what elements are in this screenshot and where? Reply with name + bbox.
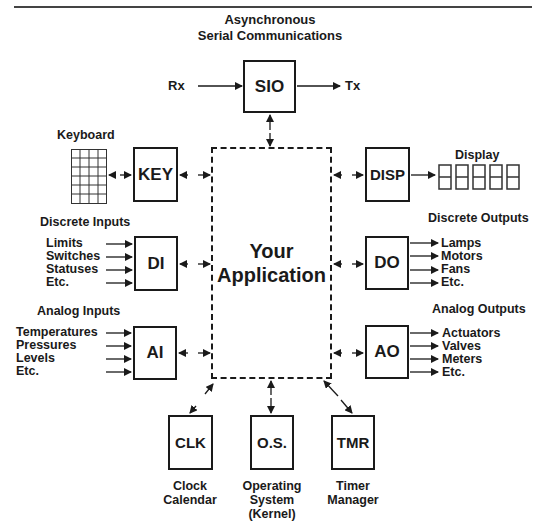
list-item: Etc. <box>16 365 98 378</box>
clk-box: CLK <box>168 415 213 470</box>
analog-outputs-heading: Analog Outputs <box>432 302 526 316</box>
rx-label: Rx <box>168 79 185 93</box>
tmr-caption: Timer Manager <box>313 479 393 507</box>
analog-inputs-list: Temperatures Pressures Levels Etc. <box>16 326 98 378</box>
do-box: DO <box>365 236 409 290</box>
os-caption: Operating System (Kernel) <box>232 479 312 521</box>
center-line-1: Your <box>217 239 326 263</box>
sio-box: SIO <box>243 60 296 113</box>
discrete-inputs-heading: Discrete Inputs <box>40 215 130 229</box>
title-line-1: Asynchronous <box>170 12 370 28</box>
di-box: DI <box>134 236 178 291</box>
tmr-caption-line-2: Manager <box>313 493 393 507</box>
tmr-caption-line-1: Timer <box>313 479 393 493</box>
discrete-inputs-list: Limits Switches Statuses Etc. <box>46 237 100 289</box>
key-box: KEY <box>133 147 178 202</box>
discrete-outputs-list: Lamps Motors Fans Etc. <box>441 237 483 289</box>
tmr-box: TMR <box>331 415 375 470</box>
title-line-2: Serial Communications <box>170 28 370 44</box>
ai-box: AI <box>133 326 177 380</box>
list-item: Etc. <box>441 276 483 289</box>
os-caption-line-3: (Kernel) <box>232 507 312 521</box>
tx-label: Tx <box>345 79 360 93</box>
discrete-outputs-heading: Discrete Outputs <box>428 211 529 225</box>
display-label: Display <box>455 148 499 162</box>
list-item: Etc. <box>46 276 100 289</box>
keyboard-grid-icon <box>71 149 107 204</box>
list-item: Etc. <box>442 366 500 379</box>
top-rule <box>14 6 532 8</box>
clk-caption-line-2: Calendar <box>150 493 230 507</box>
clk-caption: Clock Calendar <box>150 479 230 507</box>
os-caption-line-1: Operating <box>232 479 312 493</box>
analog-inputs-heading: Analog Inputs <box>37 304 120 318</box>
disp-box: DISP <box>365 147 410 202</box>
analog-outputs-list: Actuators Valves Meters Etc. <box>442 327 500 379</box>
your-application-box: Your Application <box>211 147 332 379</box>
center-line-2: Application <box>217 263 326 287</box>
ao-box: AO <box>365 325 409 379</box>
keyboard-label: Keyboard <box>57 128 115 142</box>
sio-title: Asynchronous Serial Communications <box>170 12 370 44</box>
clk-caption-line-1: Clock <box>150 479 230 493</box>
os-caption-line-2: System <box>232 493 312 507</box>
os-box: O.S. <box>250 415 294 470</box>
seven-segment-display-icon <box>437 163 521 191</box>
